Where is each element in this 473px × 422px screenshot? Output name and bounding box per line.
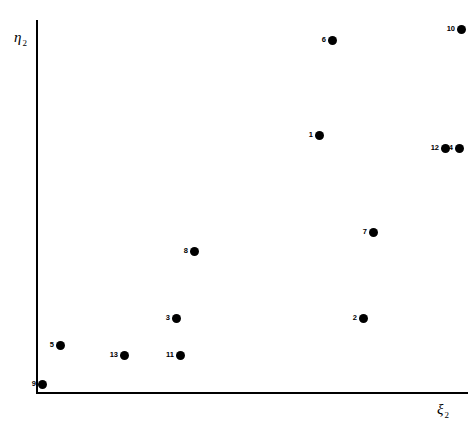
data-point-marker bbox=[457, 25, 466, 34]
x-axis-line bbox=[36, 392, 468, 394]
data-point-marker bbox=[120, 351, 129, 360]
data-point-marker bbox=[172, 314, 181, 323]
data-point-marker bbox=[369, 228, 378, 237]
data-point-label: 9 bbox=[32, 379, 36, 388]
data-point-label: 8 bbox=[184, 246, 188, 255]
data-point-marker bbox=[176, 351, 185, 360]
data-point-marker bbox=[38, 380, 47, 389]
y-axis-label: η2 bbox=[14, 30, 27, 48]
data-point-marker bbox=[56, 341, 65, 350]
data-point-label: 10 bbox=[447, 24, 455, 33]
data-point-label: 13 bbox=[110, 350, 118, 359]
data-point-label: 6 bbox=[322, 35, 326, 44]
data-point-label: 11 bbox=[166, 350, 174, 359]
data-point-marker bbox=[315, 131, 324, 140]
data-point-label: 3 bbox=[166, 313, 170, 322]
scatter-plot-figure: η2 ξ2 12345678910111213 bbox=[0, 0, 473, 422]
data-point-label: 1 bbox=[309, 130, 313, 139]
data-point-label: 12 bbox=[431, 143, 439, 152]
data-point-label: 2 bbox=[353, 313, 357, 322]
data-point-label: 7 bbox=[363, 227, 367, 236]
data-point-marker bbox=[328, 36, 337, 45]
y-axis-subscript: 2 bbox=[21, 38, 27, 48]
data-point-marker bbox=[455, 144, 464, 153]
data-point-marker bbox=[359, 314, 368, 323]
data-point-label: 5 bbox=[50, 340, 54, 349]
x-axis-subscript: 2 bbox=[443, 410, 449, 420]
x-axis-label: ξ2 bbox=[437, 402, 449, 420]
data-point-marker bbox=[441, 144, 450, 153]
y-axis-line bbox=[36, 20, 38, 394]
data-point-marker bbox=[190, 247, 199, 256]
